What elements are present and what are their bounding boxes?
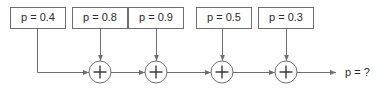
adder-node-3[interactable]: [211, 61, 233, 83]
adder-node-4[interactable]: [275, 61, 297, 83]
diagram-canvas: p = 0.4 p = 0.8 p = 0.9 p = 0.5 p = 0.3: [0, 0, 382, 90]
probability-box-4-label: p = 0.5: [207, 11, 241, 23]
probability-box-1[interactable]: p = 0.4: [11, 8, 66, 29]
adder-node-2[interactable]: [145, 61, 167, 83]
wire-box1-to-adder1: [38, 29, 90, 73]
probability-adder-diagram: p = 0.4 p = 0.8 p = 0.9 p = 0.5 p = 0.3: [0, 0, 382, 90]
probability-box-1-label: p = 0.4: [21, 11, 55, 23]
probability-box-2[interactable]: p = 0.8: [73, 8, 128, 29]
output-label: p = ?: [345, 66, 370, 78]
adder-node-1[interactable]: [89, 61, 111, 83]
probability-box-4[interactable]: p = 0.5: [197, 8, 252, 29]
probability-box-5-label: p = 0.3: [269, 11, 303, 23]
probability-box-3-label: p = 0.9: [139, 11, 173, 23]
probability-box-3[interactable]: p = 0.9: [129, 8, 184, 29]
probability-box-5[interactable]: p = 0.3: [259, 8, 314, 29]
probability-box-2-label: p = 0.8: [83, 11, 117, 23]
